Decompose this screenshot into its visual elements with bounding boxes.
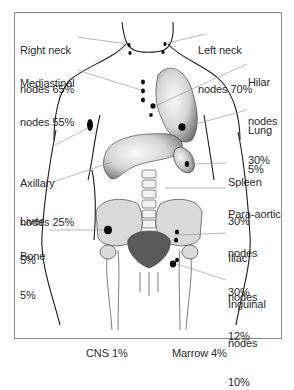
inguinal-node [175,258,179,262]
axillary-node [87,119,93,131]
lung-node [178,123,185,131]
mediastinal-node [141,98,145,103]
bone-node [104,226,112,234]
label-left-neck-nodes: Left neck nodes 70% [198,18,252,109]
hilar-node [150,103,155,109]
pelvis [96,199,202,330]
iliac-node [175,229,179,234]
inguinal-node [170,261,176,268]
right-neck-node [127,43,130,47]
spine [142,170,156,228]
spleen-node [185,161,189,167]
label-mediastinal-nodes: Mediastinal nodes 55% [20,51,75,142]
hilar-node [149,113,153,117]
label-inguinal-nodes: Inguinal nodes 10% [228,272,266,390]
iliac-node [174,237,178,242]
label-marrow: Marrow 4% [172,321,227,373]
left-neck-node [161,50,164,54]
mediastinal-node [141,80,145,85]
left-neck-node [163,42,166,46]
label-cns: CNS 1% [86,321,128,373]
label-bone: Bone 5% [20,224,45,315]
right-neck-node [128,51,131,55]
mediastinal-node [141,89,145,94]
lung-shape [156,68,197,142]
